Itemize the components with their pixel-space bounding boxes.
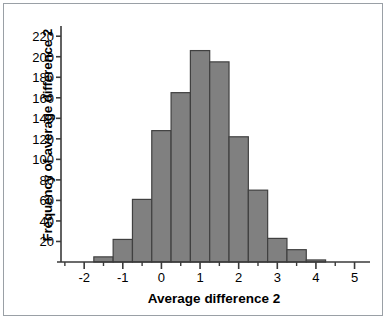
histogram-bar <box>113 239 132 262</box>
figure-frame: Frequency of average difference 2 204060… <box>3 3 383 316</box>
x-tick-label: 1 <box>189 270 211 285</box>
x-tick-label: 0 <box>150 270 172 285</box>
x-tick-label: 2 <box>228 270 250 285</box>
histogram-bar <box>268 238 287 262</box>
histogram-bar <box>152 131 171 262</box>
x-tick-label: 3 <box>266 270 288 285</box>
x-tick-label: -2 <box>73 270 95 285</box>
histogram-bar <box>132 199 151 262</box>
x-axis-title: Average difference 2 <box>64 291 364 306</box>
x-tick-label: 5 <box>344 270 366 285</box>
x-tick-label: 4 <box>305 270 327 285</box>
histogram-bar <box>287 250 306 262</box>
bars-group <box>94 51 326 262</box>
x-tick-label: -1 <box>112 270 134 285</box>
histogram-bar <box>171 93 190 262</box>
histogram-bar <box>248 190 267 262</box>
plot-area: Frequency of average difference 2 204060… <box>4 4 384 317</box>
histogram-bar <box>190 51 209 262</box>
histogram-bar <box>229 137 248 262</box>
histogram-bar <box>210 62 229 262</box>
